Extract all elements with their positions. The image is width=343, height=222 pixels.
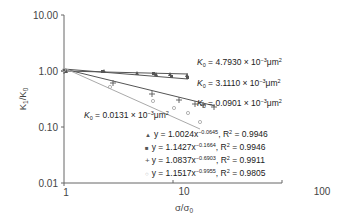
x-axis-title: σ/σ0 [175, 202, 193, 214]
fit-line-0.0901 [64, 69, 215, 106]
legend-item-plus: +y = 1.0837x−0.6903, R2 = 0.9911 [145, 155, 265, 165]
y-tick-1: 1.00 [39, 66, 59, 77]
legend-item-circle: ○y = 1.1517x−0.9955, R2 = 0.9805 [145, 168, 266, 178]
legend: ▲y = 1.0024x−0.0645, R2 = 0.9946 ■y = 1.… [145, 129, 268, 178]
x-tick-10: 10 [178, 186, 190, 197]
y-tick-10: 10.00 [33, 10, 58, 21]
legend-item-square: ■y = 1.1427x−0.1664, R2 = 0.9946 [145, 142, 266, 152]
annotation-k0-4.7930: K0 = 4.7930 × 10−3μm2 [197, 57, 282, 68]
y-tick-0.01: 0.01 [39, 178, 59, 189]
annotation-k0-0.0131: K0 = 0.0131 × 10−3μm2 [84, 110, 169, 121]
y-axis-title: K1/K0 [17, 87, 29, 110]
annotation-k0-3.1110: K0 = 3.1110 × 10−3μm2 [197, 78, 281, 89]
x-tick-1: 1 [63, 187, 69, 198]
power-law-chart: 10.00 1.00 0.10 0.01 1 10 100 σ/σ0 K1/K0 [0, 0, 343, 222]
y-tick-0.1: 0.10 [39, 122, 59, 133]
x-tick-100: 100 [314, 186, 331, 197]
annotation-k0-0.0901: K0 = 0.0901 × 10−3μm2 [197, 98, 282, 109]
legend-item-triangle: ▲y = 1.0024x−0.0645, R2 = 0.9946 [145, 129, 268, 139]
